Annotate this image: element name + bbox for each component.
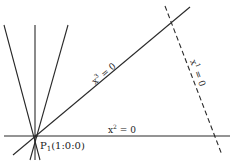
projective-plane-diagram: P1(1:0:0) x2 = 0 x3 = 0 x1 = 0 [0,0,230,165]
line-x1-zero [165,6,222,155]
label-x3-zero: x3 = 0 [89,59,118,86]
label-x1-zero: x1 = 0 [188,57,209,88]
label-x2-zero: x2 = 0 [108,123,136,135]
point-p1-marker [34,134,37,137]
line-x3-zero [13,7,190,155]
point-p1-label: P1(1:0:0) [40,140,85,153]
